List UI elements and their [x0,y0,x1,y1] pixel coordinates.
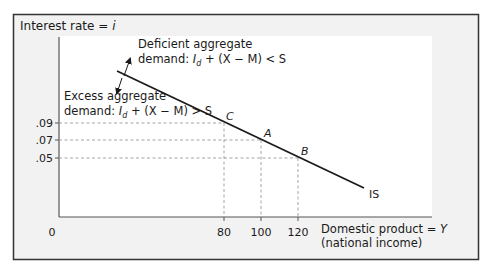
x-tick-label: 100 [251,226,272,239]
y-tick-label: .05 [36,152,54,165]
excess-annotation-line1: Excess aggregate [64,89,166,103]
deficient-annotation-line1: Deficient aggregate [138,37,252,51]
x-axis-label: Domestic product = Y [321,222,448,236]
point-a-label: A [263,127,272,140]
y-tick-label: .09 [36,117,54,130]
excess-annotation-line2: demand: Id + (X − M) > S [64,104,212,120]
is-curve-label: IS [369,188,379,201]
y-tick-label: .07 [36,134,54,147]
deficient-annotation-line2: demand: Id + (X − M) < S [138,52,286,68]
origin-label: 0 [49,226,56,239]
point-c-label: C [226,110,234,123]
x-axis-sublabel: (national income) [321,236,422,250]
x-tick-label: 80 [217,226,231,239]
is-curve-chart: Interest rate = i .09 .07 .05 0 80 100 1… [0,0,487,271]
x-tick-label: 120 [288,226,309,239]
point-b-label: B [301,145,309,158]
y-axis-label: Interest rate = i [20,19,116,33]
